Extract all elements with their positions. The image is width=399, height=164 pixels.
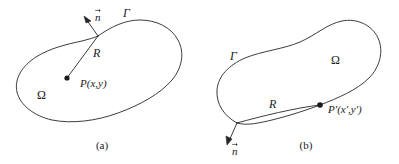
panel-caption-a: (a) [82, 140, 122, 151]
point-label-a: P(x,y) [80, 78, 107, 89]
normal-label-a: n [95, 9, 101, 23]
normal-label-text-a: n [95, 11, 101, 23]
domain-label-a: Ω [37, 89, 46, 101]
radius-label-a: R [93, 47, 100, 59]
point-label-b: P′(x′,y′) [328, 104, 362, 115]
normal-label-text-b: n [232, 145, 238, 157]
normal-vector-head-a [84, 16, 91, 23]
vector-accent-arrow-a [95, 8, 101, 12]
boundary-curve-a [16, 20, 181, 122]
panel-b: Γ Ω R n P′(x′,y′) (b) [200, 0, 399, 164]
figure-root: Γ Ω R n P(x,y) (a) [0, 0, 399, 164]
panel-a: Γ Ω R n P(x,y) (a) [0, 0, 199, 164]
vector-accent-arrow-b [232, 142, 238, 146]
point-marker-a [64, 75, 69, 80]
domain-label-b: Ω [331, 54, 340, 66]
point-marker-b [317, 102, 323, 108]
radius-label-b: R [269, 98, 276, 110]
panel-caption-b: (b) [286, 140, 326, 151]
boundary-label-b: Γ [230, 50, 237, 62]
normal-label-b: n [232, 143, 238, 157]
boundary-label-a: Γ [123, 7, 130, 19]
